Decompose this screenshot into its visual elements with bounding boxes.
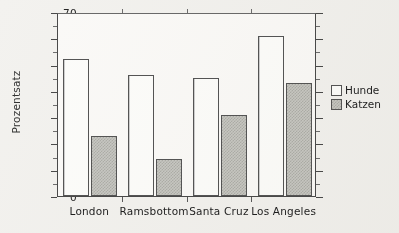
legend-label: Katzen [345,99,381,110]
bar-hunde-ramsbottom [128,75,154,196]
y-tick-major-right [316,118,323,119]
legend-swatch-cats-icon [331,99,342,110]
y-tick-major-right [316,171,323,172]
y-tick-major-right [316,39,323,40]
y-tick-minor-right [316,52,320,53]
y-tick-minor-right [316,26,320,27]
bars-layer [58,14,315,196]
bar-hunde-santa-cruz [193,78,219,196]
bar-chart-figure: Prozentsatz 010203040506070 LondonRamsbo… [0,0,399,233]
x-tick-label: Los Angeles [251,205,316,217]
y-tick-major-right [316,144,323,145]
legend-label: Hunde [345,85,379,96]
y-axis-title: Prozentsatz [10,52,22,152]
y-tick-minor-right [316,184,320,185]
y-tick-minor-right [316,158,320,159]
y-tick-minor-right [316,131,320,132]
bar-katzen-ramsbottom [156,159,182,196]
y-tick-minor-right [316,105,320,106]
y-tick-major-right [316,197,323,198]
y-tick-major-right [316,13,323,14]
y-tick-major-right [316,92,323,93]
legend-item-hunde: Hunde [331,85,381,96]
legend-item-katzen: Katzen [331,99,381,110]
bar-hunde-london [63,59,89,196]
x-tick-bottom [187,197,188,202]
y-tick-major [51,197,57,198]
x-tick-label: Ramsbottom [120,205,189,217]
chart-legend: HundeKatzen [331,85,381,113]
bar-katzen-los-angeles [286,83,312,196]
y-tick-minor-right [316,79,320,80]
x-tick-label: Santa Cruz [189,205,248,217]
bar-katzen-santa-cruz [221,115,247,196]
x-tick-bottom [122,197,123,202]
bar-hunde-los-angeles [258,36,284,196]
x-tick-label: London [70,205,110,217]
legend-swatch-dogs-icon [331,85,342,96]
x-tick-bottom [251,197,252,202]
plot-area [57,13,316,197]
bar-katzen-london [91,136,117,196]
y-tick-major-right [316,66,323,67]
